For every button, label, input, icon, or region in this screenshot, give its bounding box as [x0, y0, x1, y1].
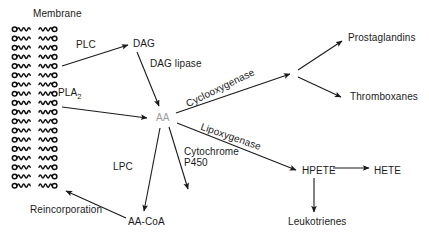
enzyme-dag-lipase: DAG lipase: [150, 58, 202, 69]
node-prostaglandins: Prostaglandins: [348, 32, 416, 43]
enzyme-pla2: PLA2: [58, 87, 81, 102]
node-aa: AA: [156, 112, 170, 123]
enzyme-cytochrome-p450-line2: P450: [184, 157, 239, 168]
node-dag: DAG: [133, 38, 155, 49]
arrow-cox-to-thromboxanes: [298, 77, 341, 97]
membrane-label: Membrane: [33, 8, 82, 19]
enzyme-cytochrome-p450-line1: Cytochrome: [184, 146, 239, 157]
arrow-aa-to-aa-coa: [144, 128, 160, 211]
arrow-membrane-to-aa: [62, 107, 147, 118]
enzyme-pla2-subscript: 2: [77, 92, 81, 101]
enzyme-cytochrome-p450: Cytochrome P450: [184, 146, 239, 168]
enzyme-plc: PLC: [76, 39, 96, 50]
label-reincorporation: Reincorporation: [30, 204, 102, 215]
enzyme-lpc: LPC: [113, 161, 133, 172]
node-leukotrienes: Leukotrienes: [288, 216, 346, 227]
node-hpete: HPETE: [302, 165, 336, 176]
node-hete: HETE: [374, 165, 401, 176]
node-aa-coa: AA-CoA: [128, 216, 165, 227]
enzyme-pla2-main: PLA: [58, 87, 77, 98]
arrow-cox-to-prostaglandins: [298, 41, 342, 70]
node-thromboxanes: Thromboxanes: [350, 91, 418, 102]
pathway-diagram: Membrane DAG AA AA-CoA Prostaglandins Th…: [0, 0, 429, 240]
